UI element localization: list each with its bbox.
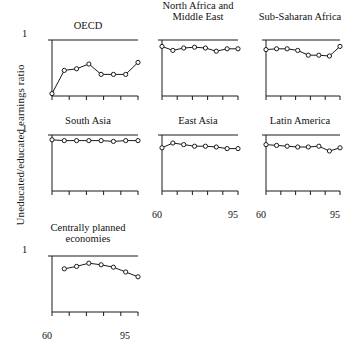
panel-title-north-africa-line1: North Africa and bbox=[152, 0, 244, 12]
figure-multiples: Uneducated/educated earnings ratio OECD … bbox=[0, 0, 349, 352]
panel-title-centrally-planned-line1: Centrally planned bbox=[36, 222, 140, 234]
x-tick-label-right-latin-america: 95 bbox=[330, 209, 340, 220]
panel-sub-saharan-africa: Sub-Saharan Africa bbox=[256, 0, 344, 115]
panel-east-asia: East Asia 60 95 bbox=[152, 115, 244, 225]
panel-south-asia: South Asia 1 bbox=[36, 115, 140, 215]
series-south-asia bbox=[46, 129, 140, 207]
panel-title-centrally-planned-line2: economies bbox=[36, 233, 140, 245]
plot-area-sub-saharan-africa bbox=[260, 34, 342, 112]
y-tick-label-one-centrally-planned: 1 bbox=[22, 244, 27, 255]
y-tick-label-one-oecd: 1 bbox=[22, 28, 27, 39]
panel-title-oecd: OECD bbox=[36, 20, 140, 32]
panel-latin-america: Latin America 60 95 bbox=[256, 115, 344, 225]
x-tick-label-left-east-asia: 60 bbox=[152, 209, 162, 220]
series-centrally-planned bbox=[46, 250, 140, 328]
panel-centrally-planned-economies: Centrally planned economies 1 60 95 bbox=[36, 222, 140, 342]
x-tick-label-left-centrally-planned: 60 bbox=[42, 330, 52, 341]
series-latin-america bbox=[260, 129, 342, 207]
panel-title-south-asia: South Asia bbox=[36, 115, 140, 127]
plot-area-east-asia bbox=[156, 129, 240, 207]
plot-area-south-asia bbox=[46, 129, 140, 207]
x-tick-label-left-latin-america: 60 bbox=[256, 209, 266, 220]
y-tick-label-one-south-asia: 1 bbox=[22, 123, 27, 134]
series-north-africa bbox=[156, 34, 240, 112]
plot-area-centrally-planned bbox=[46, 250, 140, 328]
panel-title-latin-america: Latin America bbox=[256, 115, 344, 127]
series-oecd bbox=[46, 34, 140, 112]
series-sub-saharan-africa bbox=[260, 34, 342, 112]
panel-title-sub-saharan-africa: Sub-Saharan Africa bbox=[256, 11, 344, 23]
y-axis-label: Uneducated/educated earnings ratio bbox=[14, 30, 26, 260]
panel-north-africa-middle-east: North Africa and Middle East bbox=[152, 0, 244, 115]
x-tick-label-right-east-asia: 95 bbox=[228, 209, 238, 220]
x-tick-label-right-centrally-planned: 95 bbox=[120, 330, 130, 341]
panel-title-east-asia: East Asia bbox=[152, 115, 244, 127]
plot-area-north-africa bbox=[156, 34, 240, 112]
panel-oecd: OECD 1 bbox=[36, 20, 140, 115]
series-east-asia bbox=[156, 129, 240, 207]
plot-area-oecd bbox=[46, 34, 140, 112]
plot-area-latin-america bbox=[260, 129, 342, 207]
panel-title-north-africa-line2: Middle East bbox=[152, 11, 244, 23]
